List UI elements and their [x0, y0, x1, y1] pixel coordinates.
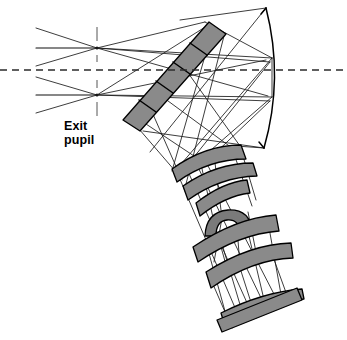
lens-relay-group	[172, 145, 304, 332]
exit-pupil-label: Exitpupil	[64, 119, 94, 147]
ray-edge-top	[180, 8, 266, 20]
optical-diagram: Exitpupil	[0, 0, 347, 340]
ray-ret-12	[164, 98, 232, 148]
exit-pupil-label-line2: pupil	[64, 133, 94, 147]
incoming-ray-bundle-upper	[36, 28, 97, 66]
pupil-markers	[96, 27, 99, 116]
ray-ret-10	[139, 129, 176, 172]
ray-lower-c	[36, 95, 97, 113]
optical-system-svg	[0, 0, 347, 340]
ray-upper-c	[36, 48, 97, 66]
primary-mirror-surface	[264, 8, 275, 148]
ray-lower-a	[36, 77, 97, 95]
ray-ret-13	[186, 70, 240, 146]
incoming-ray-bundle-lower	[36, 77, 97, 113]
ray-ret-11	[146, 124, 200, 160]
exit-pupil-label-line1: Exit	[64, 119, 87, 133]
ray-upper-a	[36, 28, 97, 48]
